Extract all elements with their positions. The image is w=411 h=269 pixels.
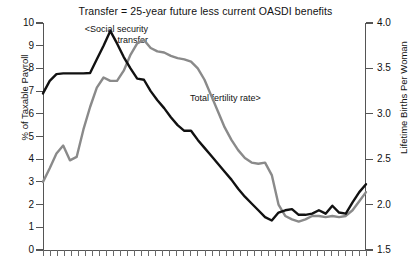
chart-plot-area [0,0,411,269]
chart-root: Transfer = 25-year future less current O… [0,0,411,269]
series-line-total-fertility-rate [43,40,366,222]
series-line-social-security-transfer [43,31,366,221]
